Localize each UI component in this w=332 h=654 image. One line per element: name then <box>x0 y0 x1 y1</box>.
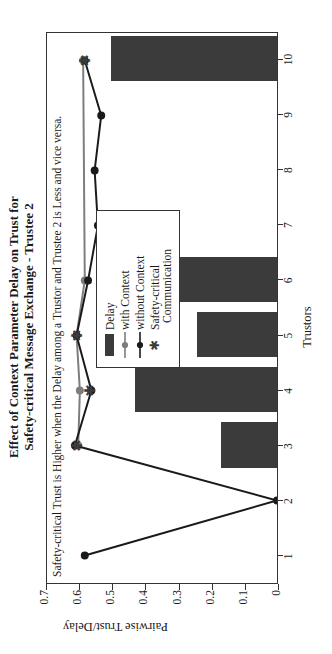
x-tick-mark <box>278 390 283 391</box>
x-tick-mark <box>278 445 283 446</box>
y-tick-label: 0.1 <box>237 590 249 626</box>
x-axis-label: Trustors <box>300 0 315 654</box>
y-tick-mark <box>245 584 246 590</box>
y-tick-label: 0.4 <box>137 590 149 626</box>
y-tick-mark <box>212 584 213 590</box>
legend-label: Delay <box>104 303 116 330</box>
bar-swatch-icon <box>105 330 114 360</box>
y-tick-label: 0.3 <box>171 590 183 626</box>
x-tick-label: 9 <box>282 102 294 128</box>
page-title: Effect of Context Parameter Delay on Tru… <box>6 0 36 654</box>
legend-item-delay: Delay <box>102 218 117 360</box>
y-tick-label: 0.7 <box>38 590 50 626</box>
x-tick-mark <box>278 114 283 115</box>
legend-item-with-context: with Context <box>117 218 132 360</box>
x-tick-label: 5 <box>282 323 294 349</box>
x-tick-label: 1 <box>282 543 294 569</box>
star-marker-icon: ✱ <box>81 384 99 397</box>
x-tick-mark <box>278 335 283 336</box>
gray-line-circle-icon <box>119 330 131 360</box>
x-tick-label: 2 <box>282 488 294 514</box>
legend-label-continued: Communication <box>161 218 173 360</box>
x-tick-label: 10 <box>282 47 294 73</box>
title-line-2: Safety-critical Message Exchange - Trust… <box>21 0 36 654</box>
legend-item-safety-critical: ✱ Safety-critical <box>147 218 162 360</box>
svg-text:✱: ✱ <box>148 340 161 351</box>
star-marker-icon: ✱ <box>148 330 161 360</box>
x-tick-mark <box>278 169 283 170</box>
x-tick-mark <box>278 500 283 501</box>
y-tick-label: 0 <box>270 590 282 626</box>
star-marker-icon: ✱ <box>68 439 86 452</box>
chart-figure: Effect of Context Parameter Delay on Tru… <box>0 0 332 654</box>
data-point <box>97 112 105 120</box>
legend-item-without-context: without Context <box>132 218 147 360</box>
y-tick-mark <box>145 584 146 590</box>
data-point <box>273 497 277 505</box>
x-tick-label: 8 <box>282 157 294 183</box>
y-tick-label: 0.6 <box>71 590 83 626</box>
x-tick-mark <box>278 59 283 60</box>
chart-legend: Delay with Context without Context ✱ Saf… <box>96 210 180 368</box>
y-tick-mark <box>112 584 113 590</box>
x-tick-mark <box>278 224 283 225</box>
legend-label: without Context <box>134 256 146 330</box>
y-tick-mark <box>278 584 279 590</box>
y-tick-mark <box>46 584 47 590</box>
data-point <box>84 277 92 285</box>
y-tick-mark <box>179 584 180 590</box>
data-point <box>81 552 89 560</box>
x-tick-label: 7 <box>282 212 294 238</box>
rotated-figure: Effect of Context Parameter Delay on Tru… <box>0 0 332 654</box>
legend-label: Safety-critical <box>149 265 161 330</box>
title-line-1: Effect of Context Parameter Delay on Tru… <box>6 196 21 458</box>
y-tick-label: 0.5 <box>104 590 116 626</box>
star-marker-icon: ✱ <box>68 329 86 342</box>
y-tick-label: 0.2 <box>204 590 216 626</box>
x-tick-mark <box>278 279 283 280</box>
star-marker-icon: ✱ <box>76 54 94 67</box>
x-tick-label: 3 <box>282 433 294 459</box>
x-tick-label: 4 <box>282 378 294 404</box>
y-tick-mark <box>79 584 80 590</box>
legend-label: with Context <box>119 270 131 330</box>
x-tick-label: 6 <box>282 267 294 293</box>
x-tick-mark <box>278 555 283 556</box>
black-line-circle-icon <box>134 330 146 360</box>
data-point <box>91 167 99 175</box>
